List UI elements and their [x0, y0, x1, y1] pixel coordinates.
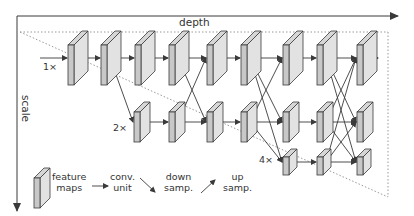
feature-map-1-1 — [169, 102, 185, 142]
feature-map-0-1 — [101, 31, 121, 85]
feature-map-1-0 — [134, 102, 150, 142]
feature-map-0-4 — [207, 31, 227, 85]
legend-up-samp: up samp. — [223, 171, 252, 193]
feature-map-0-0 — [68, 31, 88, 85]
feature-map-0-2 — [135, 31, 155, 85]
legend-feature-maps: feature maps — [52, 171, 86, 193]
row-label-1x: 1× — [43, 61, 57, 72]
legend-feature-map — [34, 168, 50, 208]
feature-map-stacks — [68, 31, 377, 175]
depth-axis-label: depth — [179, 17, 210, 28]
feature-map-0-8 — [357, 31, 377, 85]
feature-map-1-5 — [317, 102, 333, 142]
feature-map-1-4 — [283, 102, 299, 142]
legend-down-samp: down samp. — [164, 171, 193, 193]
feature-map-1-2 — [207, 102, 223, 142]
feature-map-0-7 — [317, 31, 337, 85]
feature-map-1-3 — [241, 102, 257, 142]
up-samp-arrow-icon — [201, 180, 215, 193]
feature-map-0-6 — [283, 31, 303, 85]
feature-map-2-2 — [357, 149, 371, 175]
down-samp-arrow-icon — [140, 178, 155, 192]
feature-map-0-5 — [241, 31, 261, 85]
feature-map-2-0 — [283, 149, 297, 175]
row-label-4x: 4× — [259, 154, 273, 165]
feature-map-1-6 — [357, 102, 373, 142]
feature-map-2-1 — [317, 149, 331, 175]
row-label-2x: 2× — [113, 122, 127, 133]
scale-axis-label: scale — [20, 95, 31, 122]
legend-conv-unit: conv. unit — [110, 171, 135, 193]
legend-feature-map-icon — [34, 168, 50, 208]
